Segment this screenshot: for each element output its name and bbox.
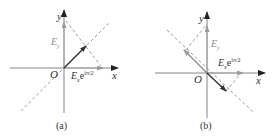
resultant-vector-a [64,46,86,68]
x-axis-label-b: x [256,75,261,86]
panel-b [155,12,265,118]
resultant-vector-b-up [184,50,207,73]
dashed-projection-b-top [186,24,207,50]
origin-label-a: O [50,69,58,80]
polarization-diagram [0,0,274,139]
dashed-projection-a [66,21,101,66]
panel-a [10,10,118,113]
resultant-vector-b-down [207,73,226,91]
ey-label-b: Ey [211,39,220,49]
origin-label-b: O [194,74,202,85]
ey-label-b-sub: y [217,45,220,51]
ex-label-b: Exeiπ/2 [218,58,241,68]
y-axis-label-a: y [57,11,62,22]
ey-label-a-sub: y [57,43,60,49]
dashed-diagonal-b [167,30,253,112]
ex-label-a: Exeiπ/2 [71,71,94,81]
y-axis-label-b: y [199,13,204,24]
dashed-projection-b-bottom [226,71,243,91]
caption-a: (a) [56,121,67,131]
caption-b: (b) [200,121,212,131]
x-axis-label-a: x [112,70,117,81]
ex-label-b-exp: iπ/2 [231,57,240,63]
ex-label-a-exp: iπ/2 [84,70,93,76]
ey-label-a: Ey [51,37,60,47]
